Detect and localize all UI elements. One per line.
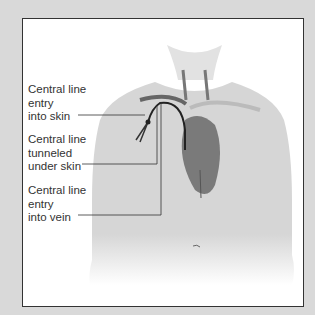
- label-line: Central line: [28, 133, 86, 147]
- label-line: into vein: [28, 211, 86, 225]
- label-line: into skin: [28, 110, 86, 124]
- label-line: entry: [28, 198, 86, 212]
- label-tunneled-under-skin: Central line tunneled under skin: [28, 133, 86, 174]
- neck: [167, 45, 222, 80]
- label-line: entry: [28, 97, 86, 111]
- label-line: Central line: [28, 184, 86, 198]
- label-entry-into-vein: Central line entry into vein: [28, 184, 86, 225]
- label-line: under skin: [28, 160, 86, 174]
- label-line: Central line: [28, 83, 86, 97]
- label-line: tunneled: [28, 147, 86, 161]
- label-entry-into-skin: Central line entry into skin: [28, 83, 86, 124]
